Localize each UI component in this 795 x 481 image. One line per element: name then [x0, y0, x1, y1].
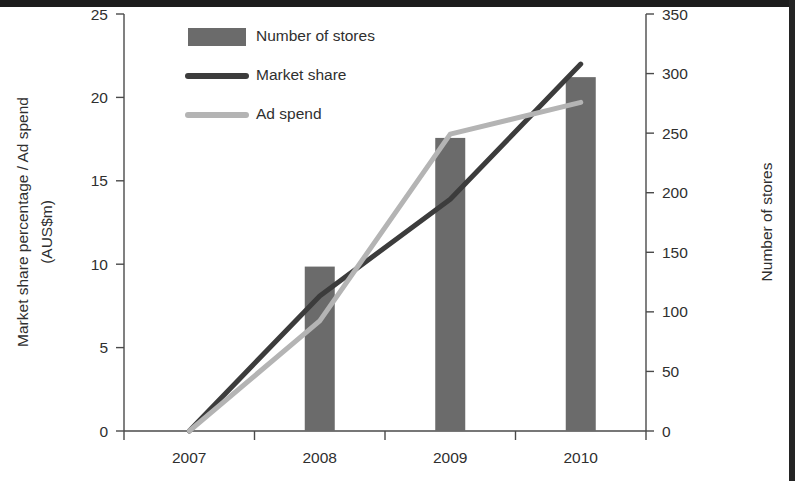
legend-label-market-share: Market share [256, 66, 346, 83]
left-tick-label: 20 [91, 89, 109, 106]
x-tick-label-2010: 2010 [564, 449, 599, 466]
chart-canvas: 0510152025 050100150200250300350 2007200… [0, 0, 795, 481]
legend-swatch-bar [188, 28, 246, 46]
left-tick-label: 15 [91, 172, 108, 189]
right-axis-title: Number of stores [758, 162, 775, 281]
right-tick-label: 100 [662, 303, 688, 320]
bar-2009 [435, 138, 465, 431]
bar-2008 [305, 267, 335, 431]
x-tick-label-2009: 2009 [433, 449, 467, 466]
right-axis-ticks: 050100150200250300350 [646, 6, 688, 440]
right-tick-label: 150 [662, 244, 688, 261]
legend-label-number-of-stores: Number of stores [256, 27, 375, 44]
left-axis-title-line1: Market share percentage / Ad spend [14, 97, 31, 347]
left-axis-ticks: 0510152025 [91, 6, 124, 440]
left-tick-label: 25 [91, 6, 108, 23]
left-tick-label: 0 [99, 423, 108, 440]
right-tick-label: 350 [662, 6, 688, 23]
x-tick-label-2008: 2008 [303, 449, 337, 466]
right-tick-label: 50 [662, 363, 680, 380]
left-axis-title-line2: (AUS$m) [38, 200, 55, 264]
right-tick-label: 200 [662, 184, 688, 201]
left-tick-label: 5 [99, 339, 108, 356]
x-tick-label-2007: 2007 [172, 449, 206, 466]
right-tick-label: 0 [662, 423, 671, 440]
right-tick-label: 250 [662, 125, 688, 142]
bar-2010 [566, 77, 596, 431]
left-tick-label: 10 [91, 256, 109, 273]
x-axis-ticks: 2007200820092010 [124, 431, 646, 466]
legend-label-ad-spend: Ad spend [256, 105, 322, 122]
right-tick-label: 300 [662, 65, 688, 82]
chart-figure: 0510152025 050100150200250300350 2007200… [0, 0, 795, 481]
